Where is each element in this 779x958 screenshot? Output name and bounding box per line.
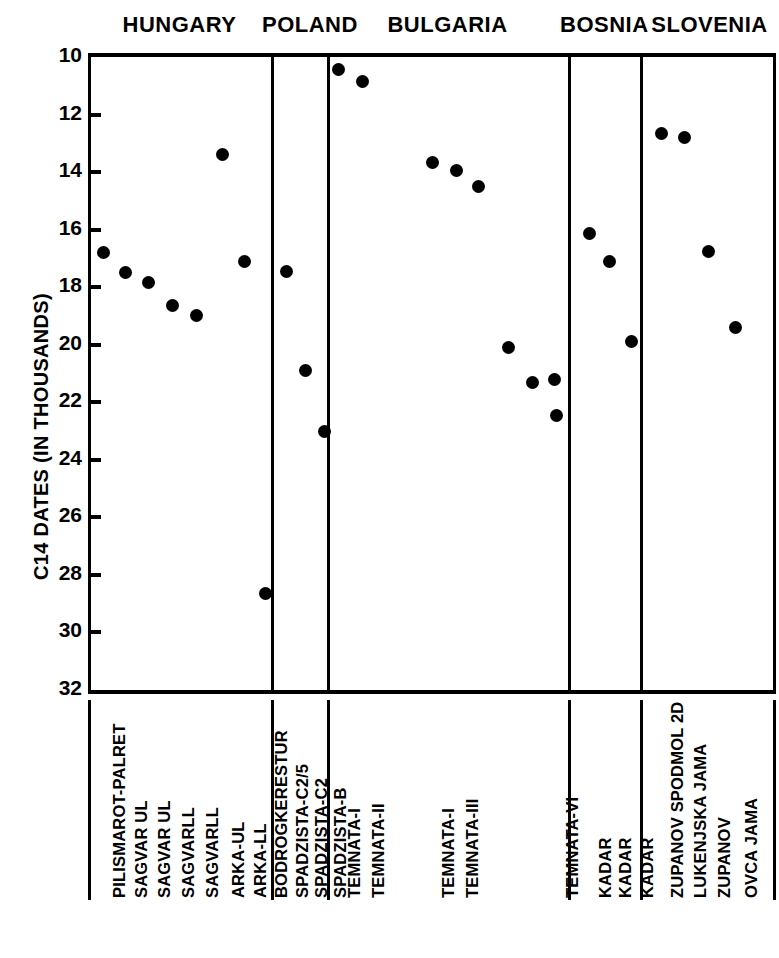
data-point-marker — [526, 376, 539, 389]
data-point-marker — [238, 255, 251, 268]
data-point — [424, 169, 440, 170]
y-tick-label-16: 16 — [36, 216, 82, 240]
site-label: TEMNATA-VI — [563, 797, 582, 898]
data-point — [601, 307, 617, 308]
data-point — [448, 189, 464, 190]
site-label: TEMNATA-II — [369, 803, 388, 898]
data-point-marker — [472, 180, 485, 193]
data-point — [676, 146, 692, 147]
data-point-marker — [678, 131, 691, 144]
region-header-hungary: HUNGARY — [88, 12, 271, 38]
data-point — [354, 100, 370, 101]
site-label: TEMNATA-I — [345, 808, 364, 898]
data-point-marker — [356, 75, 369, 88]
data-point-marker — [119, 266, 132, 279]
y-tick-label-22: 22 — [36, 388, 82, 412]
data-point — [330, 80, 346, 81]
data-point — [727, 339, 743, 340]
site-label: ZUPANOV SPODMOL 2D — [668, 702, 687, 898]
data-point — [214, 166, 230, 167]
data-point — [140, 283, 156, 284]
data-point-marker — [603, 255, 616, 268]
site-label: SPADZISTA-C2/5 — [293, 764, 312, 898]
data-point-marker — [548, 373, 561, 386]
data-point-marker — [332, 63, 345, 76]
data-point — [188, 316, 204, 317]
site-label: KADAR — [638, 837, 657, 898]
label-band-divider-0 — [88, 700, 91, 900]
data-point — [524, 394, 540, 395]
data-point — [548, 434, 564, 435]
data-point-marker — [702, 245, 715, 258]
site-label: SAGVARLL — [203, 807, 222, 898]
region-divider-1 — [327, 53, 330, 694]
data-point — [316, 440, 332, 441]
data-point-marker — [299, 364, 312, 377]
plot-right-border — [773, 53, 776, 694]
site-label: ZUPANOV — [715, 817, 734, 898]
data-point-marker — [280, 265, 293, 278]
data-point — [653, 140, 669, 141]
y-tick-label-12: 12 — [36, 101, 82, 125]
y-tick-label-28: 28 — [36, 561, 82, 585]
data-point — [546, 391, 562, 392]
data-point — [117, 273, 133, 274]
region-divider-2 — [568, 53, 571, 694]
chart-canvas: HUNGARYPOLANDBULGARIABOSNIASLOVENIA C14 … — [0, 0, 779, 958]
y-tick-label-24: 24 — [36, 446, 82, 470]
region-divider-3 — [640, 53, 643, 694]
site-label: TEMNATA-III — [463, 798, 482, 898]
data-point — [164, 312, 180, 313]
y-tick-label-26: 26 — [36, 503, 82, 527]
data-point — [257, 681, 273, 682]
site-label: ARKA-UL — [229, 821, 248, 898]
data-point-marker — [655, 127, 668, 140]
data-point-marker — [97, 246, 110, 259]
region-header-bosnia: BOSNIA — [560, 12, 648, 38]
site-label: SAGVARLL — [179, 807, 198, 898]
y-tick-label-18: 18 — [36, 273, 82, 297]
y-tick-label-14: 14 — [36, 158, 82, 182]
data-point-marker — [318, 425, 331, 438]
plot-top-border — [88, 53, 776, 57]
data-point — [95, 270, 111, 271]
site-label: KADAR — [616, 837, 635, 898]
data-point-marker — [625, 335, 638, 348]
label-band-divider-5 — [773, 700, 776, 900]
data-point — [700, 256, 716, 257]
data-point — [297, 385, 313, 386]
data-point-marker — [142, 276, 155, 289]
data-point-marker — [729, 321, 742, 334]
site-label: ARKA-LL — [251, 823, 270, 898]
data-point — [278, 281, 294, 282]
data-point-marker — [216, 148, 229, 161]
site-label: SAGVAR UL — [132, 800, 151, 898]
region-divider-0 — [271, 53, 274, 694]
data-point-marker — [259, 587, 272, 600]
y-tick-label-10: 10 — [36, 43, 82, 67]
y-tick-label-20: 20 — [36, 331, 82, 355]
data-point-marker — [426, 156, 439, 169]
plot-bottom-border — [88, 690, 776, 694]
data-point-marker — [190, 309, 203, 322]
data-point — [236, 270, 252, 271]
data-point — [623, 399, 639, 400]
region-header-poland: POLAND — [262, 12, 336, 38]
site-label: BODROGKERESTUR — [272, 730, 291, 898]
data-point — [581, 293, 597, 294]
data-point-marker — [166, 299, 179, 312]
site-label: LUKENJSKA JAMA — [691, 744, 710, 898]
y-tick-label-30: 30 — [36, 618, 82, 642]
site-label: KADAR — [596, 837, 615, 898]
region-header-slovenia: SLOVENIA — [640, 12, 779, 38]
data-point-marker — [583, 227, 596, 240]
y-tick-label-32: 32 — [36, 676, 82, 700]
site-label: SPADZISTA-C2 — [312, 778, 331, 898]
data-point-marker — [550, 409, 563, 422]
data-point-marker — [502, 341, 515, 354]
data-point — [500, 374, 516, 375]
data-point-marker — [450, 164, 463, 177]
site-label: TEMNATA-I — [439, 808, 458, 898]
region-header-bulgaria: BULGARIA — [327, 12, 568, 38]
data-point — [470, 195, 486, 196]
